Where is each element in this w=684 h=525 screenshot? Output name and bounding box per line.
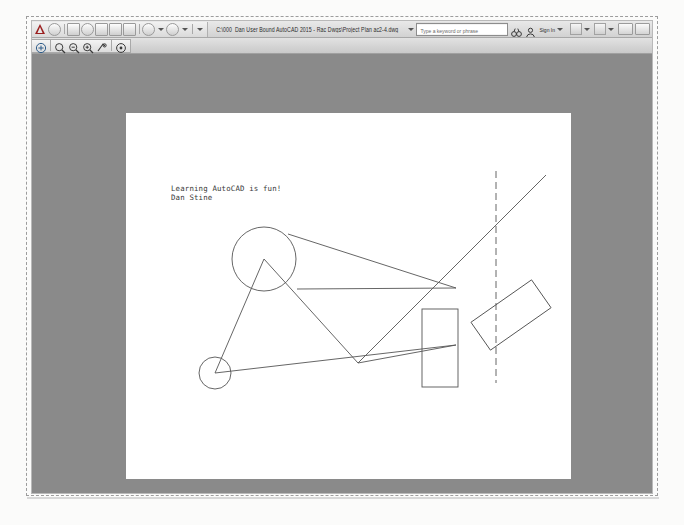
qat-separator-3 xyxy=(192,24,193,34)
qat-new-drawing-icon[interactable] xyxy=(67,23,80,36)
window-controls xyxy=(568,23,650,35)
info-center: Type a keyword or phrase Sign In xyxy=(406,23,565,36)
qat-undo-dropdown-icon[interactable] xyxy=(158,28,164,31)
diagonal-long-line[interactable] xyxy=(358,175,546,363)
zoom-toolbar-separator xyxy=(50,40,51,51)
qat-open-drawing-icon[interactable] xyxy=(81,23,94,36)
qat-save-drawing-icon[interactable] xyxy=(95,23,108,36)
quick-access-toolbar[interactable] xyxy=(32,22,208,37)
drawing-area-backdrop[interactable]: Learning AutoCAD is fun!Dan Stine xyxy=(32,55,652,493)
autocad-application-window: C:\000_Dan User Bound AutoCAD 2015 - Rac… xyxy=(31,20,653,494)
chord-line-bottom[interactable] xyxy=(215,345,456,373)
window-title: C:\000_Dan User Bound AutoCAD 2015 - Rac… xyxy=(208,25,406,33)
zoom-previous-icon[interactable] xyxy=(96,40,108,52)
zoom-realtime-icon[interactable] xyxy=(54,40,66,52)
chord-line-top[interactable] xyxy=(288,234,456,288)
zoom-window-icon[interactable] xyxy=(68,40,80,52)
qat-plot-icon[interactable] xyxy=(123,23,136,36)
qat-redo-dropdown-icon[interactable] xyxy=(182,28,188,31)
exchange-dropdown-icon[interactable] xyxy=(584,28,590,31)
window-drop-shadow xyxy=(27,497,659,499)
minimize-button[interactable] xyxy=(618,23,633,35)
question-mark-icon[interactable] xyxy=(594,23,606,35)
triangle-apex-line-left[interactable] xyxy=(215,259,264,373)
autocad-logo-icon[interactable] xyxy=(34,23,46,35)
qat-undo-icon[interactable] xyxy=(142,23,155,36)
search-input[interactable]: Type a keyword or phrase xyxy=(416,22,508,35)
sign-in-dropdown-icon[interactable] xyxy=(557,28,563,31)
zoom-scale-icon[interactable] xyxy=(82,40,94,52)
qat-separator xyxy=(64,24,65,34)
qat-save-as-drawing-icon[interactable] xyxy=(109,23,122,36)
zoom-toolbar xyxy=(32,38,652,54)
binoculars-icon[interactable] xyxy=(511,24,522,35)
rotated-rectangle[interactable] xyxy=(471,280,551,350)
triangle-apex-line-right[interactable] xyxy=(264,259,358,363)
zoom-extents-icon[interactable] xyxy=(115,40,127,52)
exchange-app-icon[interactable] xyxy=(570,23,582,35)
infocenter-dropdown-icon[interactable] xyxy=(408,28,414,31)
qat-separator-2 xyxy=(139,24,140,34)
restore-button[interactable] xyxy=(635,23,650,35)
scan-noise-band xyxy=(30,500,660,522)
drawing-geometry xyxy=(126,113,571,479)
zoom-toolbar-separator-2 xyxy=(111,40,112,51)
qat-redo-icon[interactable] xyxy=(166,23,179,36)
zoom-toolbar-group[interactable] xyxy=(32,39,131,53)
pan-hand-icon[interactable] xyxy=(35,40,47,52)
qat-customize-dropdown-icon[interactable] xyxy=(197,28,203,31)
qat-workspace-switch-icon[interactable] xyxy=(48,23,61,36)
sign-in-label[interactable]: Sign In xyxy=(539,25,555,33)
paper-sheet[interactable]: Learning AutoCAD is fun!Dan Stine xyxy=(126,113,571,479)
title-bar: C:\000_Dan User Bound AutoCAD 2015 - Rac… xyxy=(32,21,652,38)
help-dropdown-icon[interactable] xyxy=(608,28,614,31)
person-icon[interactable] xyxy=(525,24,536,35)
